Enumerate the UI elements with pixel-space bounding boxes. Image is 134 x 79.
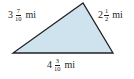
- bottom-side-unit: mi: [65, 60, 76, 70]
- bottom-side-length-label: 4 3 10 mi: [47, 58, 75, 72]
- left-side-denominator: 10: [14, 16, 23, 23]
- left-side-unit: mi: [26, 10, 37, 20]
- bottom-side-whole: 4: [47, 60, 52, 70]
- right-side-whole: 2: [98, 10, 103, 20]
- right-side-denominator: 2: [104, 16, 109, 23]
- left-side-length-label: 3 7 10 mi: [8, 8, 36, 22]
- right-side-length-label: 2 1 2 mi: [98, 8, 123, 22]
- bottom-side-denominator: 10: [53, 66, 62, 73]
- right-side-unit: mi: [112, 10, 123, 20]
- right-side-fraction: 1 2: [104, 8, 109, 22]
- left-side-fraction: 7 10: [14, 8, 23, 22]
- left-side-whole: 3: [8, 10, 13, 20]
- bottom-side-fraction: 3 10: [53, 58, 62, 72]
